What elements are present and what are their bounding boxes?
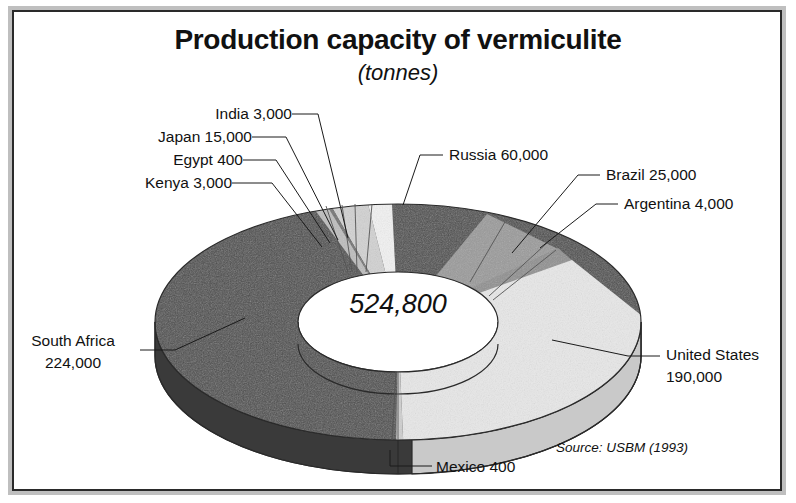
- donut-chart: [0, 0, 796, 503]
- label-egypt: Egypt 400: [40, 151, 243, 169]
- label-south-africa-line1: South Africa: [8, 332, 138, 350]
- label-india: India 3,000: [60, 105, 292, 123]
- leader-russia: [403, 155, 443, 205]
- source-note: Source: USBM (1993): [556, 440, 746, 455]
- label-south-africa-line2: 224,000: [8, 354, 138, 372]
- label-kenya: Kenya 3,000: [30, 174, 232, 192]
- label-united-states-line2: 190,000: [666, 368, 792, 386]
- label-mexico: Mexico 400: [436, 458, 606, 476]
- label-japan: Japan 15,000: [40, 128, 252, 146]
- label-brazil: Brazil 25,000: [606, 166, 786, 184]
- center-total: 524,800: [298, 289, 498, 320]
- label-united-states-line1: United States: [666, 346, 792, 364]
- label-argentina: Argentina 4,000: [624, 195, 796, 213]
- label-russia: Russia 60,000: [449, 146, 649, 164]
- chart-figure: Production capacity of vermiculite (tonn…: [0, 0, 796, 503]
